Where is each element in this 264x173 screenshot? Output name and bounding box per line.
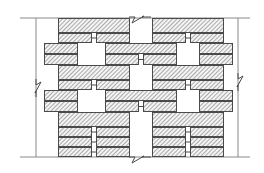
masonry-unit [59, 34, 92, 43]
masonry-unit [59, 81, 92, 90]
masonry-unit [144, 102, 177, 112]
masonry-unit [97, 81, 130, 90]
drawing-background [0, 0, 264, 173]
masonry-unit [153, 148, 186, 157]
masonry-unit [59, 128, 92, 137]
masonry-unit [153, 19, 224, 33]
masonry-unit [153, 34, 186, 43]
masonry-unit [153, 128, 186, 137]
masonry-unit [97, 148, 130, 157]
masonry-unit [153, 81, 186, 90]
masonry-unit [106, 102, 139, 112]
masonry-unit [59, 66, 130, 80]
masonry-unit [106, 55, 139, 65]
masonry-bond-drawing [0, 0, 264, 173]
masonry-unit [200, 44, 233, 54]
masonry-unit [45, 102, 78, 112]
masonry-unit [191, 148, 224, 157]
masonry-unit [200, 55, 233, 65]
masonry-unit [200, 102, 233, 112]
masonry-unit [200, 91, 233, 101]
masonry-unit [97, 34, 130, 43]
drawing-canvas [0, 0, 264, 173]
masonry-unit [59, 148, 92, 157]
masonry-unit [153, 66, 224, 80]
masonry-unit [191, 138, 224, 147]
masonry-unit [97, 138, 130, 147]
masonry-unit [45, 91, 78, 101]
course-3 [45, 44, 233, 54]
masonry-unit [153, 138, 186, 147]
masonry-unit [45, 44, 78, 54]
masonry-unit [59, 19, 130, 33]
masonry-unit [106, 91, 177, 101]
masonry-unit [97, 128, 130, 137]
course-7 [45, 91, 233, 101]
masonry-unit [106, 44, 177, 54]
masonry-unit [45, 55, 78, 65]
masonry-unit [191, 128, 224, 137]
masonry-unit [144, 55, 177, 65]
masonry-unit [191, 34, 224, 43]
masonry-unit [153, 113, 224, 127]
masonry-unit [59, 113, 130, 127]
course-4 [45, 55, 233, 65]
masonry-unit [59, 138, 92, 147]
masonry-unit [191, 81, 224, 90]
course-8 [45, 102, 233, 112]
